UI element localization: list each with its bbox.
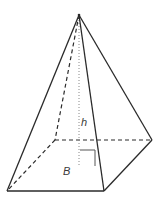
- lateral-edge-back-right: [79, 15, 152, 140]
- lateral-edge-front-right: [79, 15, 104, 191]
- apex-point: [78, 14, 81, 17]
- height-label: h: [81, 116, 87, 128]
- right-angle-marker: [80, 150, 95, 166]
- pyramid-diagram: h B: [0, 0, 162, 202]
- hidden-base-edge-left: [7, 140, 55, 191]
- base-label: B: [63, 165, 70, 177]
- hidden-lateral-edge-back-left: [55, 15, 79, 140]
- base-edge-right: [104, 140, 152, 191]
